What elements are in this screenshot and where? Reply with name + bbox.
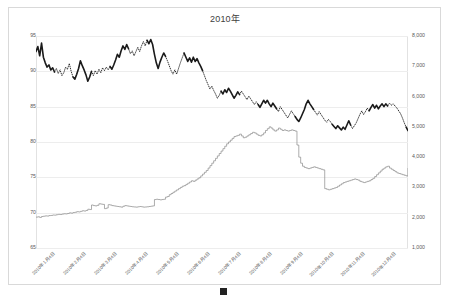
x-axis-tick-label: 2010年3月4日	[92, 250, 118, 276]
series-segment-solid	[295, 100, 314, 121]
left-axis-tick-label: 85	[8, 104, 36, 109]
series-segment-solid	[110, 44, 129, 69]
chart-caption	[0, 288, 450, 297]
x-axis-tick-label: 2010年4月4日	[123, 250, 149, 276]
right-axis-tick-label: 5,000	[412, 124, 446, 129]
x-axis-tick-label: 2010年11月4日	[338, 250, 365, 277]
series-segment-solid	[73, 61, 92, 81]
left-axis-tick-label: 95	[8, 33, 36, 38]
series-segment-dotted	[277, 107, 296, 118]
series-segment-dotted	[55, 64, 73, 77]
chart-title: 2010年	[0, 12, 450, 25]
left-axis-tick-label: 90	[8, 68, 36, 73]
x-axis-tick-label: 2010年9月4日	[278, 250, 304, 276]
series-segment-solid	[369, 104, 388, 111]
right-axis-tick-label: 7,000	[412, 63, 446, 68]
right-axis-tick-label: 3,000	[412, 184, 446, 189]
left-axis-tick-label: 70	[8, 210, 36, 215]
x-axis-tick-label: 2010年2月4日	[61, 250, 87, 276]
left-axis-tick-label: 80	[8, 139, 36, 144]
series-segment-dotted	[129, 40, 148, 56]
chart-root: 2010年 95908580757065 8,0007,0006,0005,00…	[0, 0, 450, 297]
series-segment-solid	[36, 43, 55, 72]
right-axis-tick-label: 4,000	[412, 154, 446, 159]
series-segment-solid	[147, 40, 166, 69]
series-layer	[36, 36, 408, 248]
series-line-volume	[36, 127, 408, 218]
series-segment-solid	[406, 127, 408, 131]
left-axis-tick-label: 65	[8, 245, 36, 250]
x-axis-tick-label: 2010年10月4日	[307, 250, 334, 277]
series-segment-solid	[221, 88, 240, 98]
plot-area	[36, 36, 408, 248]
right-axis-tick-label: 2,000	[412, 215, 446, 220]
right-axis-tick-label: 1,000	[412, 245, 446, 250]
x-axis-ticks: 2010年1月4日2010年2月4日2010年3月4日2010年4月4日2010…	[36, 250, 408, 290]
series-segment-solid	[332, 121, 351, 130]
x-axis-tick-label: 2010年12月4日	[369, 250, 396, 277]
gridline	[36, 248, 408, 249]
x-axis-tick-label: 2010年7月4日	[216, 250, 242, 276]
x-axis-tick-label: 2010年5月4日	[154, 250, 180, 276]
series-segment-dotted	[203, 71, 222, 99]
series-segment-dotted	[240, 91, 259, 104]
right-axis-tick-label: 6,000	[412, 94, 446, 99]
series-segment-dotted	[92, 66, 111, 75]
left-axis-tick-label: 75	[8, 174, 36, 179]
right-axis-tick-label: 8,000	[412, 33, 446, 38]
x-axis-tick-label: 2010年6月4日	[185, 250, 211, 276]
legend-swatch-icon	[220, 288, 227, 295]
series-segment-dotted	[351, 108, 370, 128]
series-segment-dotted	[314, 109, 333, 124]
series-segment-solid	[258, 100, 277, 108]
series-segment-dotted	[388, 103, 407, 127]
x-axis-tick-label: 2010年8月4日	[247, 250, 273, 276]
series-segment-solid	[184, 53, 203, 71]
series-segment-dotted	[166, 53, 185, 74]
